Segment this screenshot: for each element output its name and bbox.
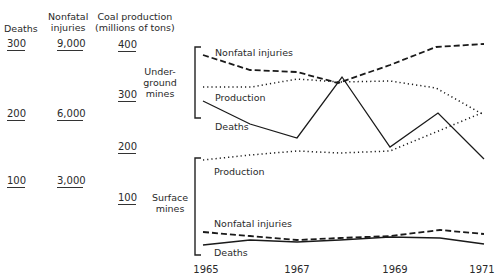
year-label-1965: 1965 (193, 264, 218, 275)
underground-bracket (195, 47, 201, 118)
underground-deaths-label: Deaths (215, 121, 249, 132)
surface-bracket (195, 158, 201, 255)
year-label-1969: 1969 (382, 264, 407, 275)
underground-deaths-line (203, 77, 484, 159)
year-label-1967: 1967 (284, 264, 309, 275)
underground-injuries-label: Nonfatal injuries (215, 47, 293, 58)
underground-production-label: Production (215, 92, 266, 103)
surface-injuries-label: Nonfatal injuries (214, 218, 292, 229)
surface-deaths-label: Deaths (214, 247, 248, 258)
year-label-1971: 1971 (469, 264, 494, 275)
surface-production-label: Production (214, 166, 265, 177)
chart-plot (0, 0, 495, 279)
surface-production-line (203, 112, 484, 160)
